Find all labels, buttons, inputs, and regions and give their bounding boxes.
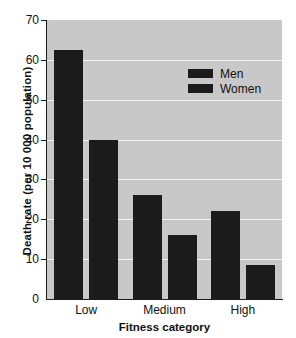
- y-axis-tick-label: 10: [5, 252, 39, 266]
- y-axis-line: [46, 20, 47, 300]
- y-axis-tick-mark: [41, 140, 46, 141]
- y-axis-tick-label: 60: [5, 53, 39, 67]
- y-axis-tick-labels: 010203040506070: [0, 0, 39, 338]
- y-axis-tick-label: 40: [5, 133, 39, 147]
- y-axis-tick-label: 50: [5, 93, 39, 107]
- y-axis-tick-label: 70: [5, 13, 39, 27]
- bar-medium-men: [133, 195, 162, 299]
- y-axis-tick-label: 20: [5, 212, 39, 226]
- y-axis-tick-mark: [41, 179, 46, 180]
- cropped-chart-title: [0, 0, 296, 5]
- bar-chart: Death rate (per 10 000 population) 01020…: [0, 0, 296, 338]
- legend-swatch-men: [188, 69, 213, 78]
- legend-item-women: Women: [188, 81, 261, 96]
- legend-label-men: Men: [220, 67, 243, 81]
- x-axis-title: Fitness category: [47, 321, 282, 333]
- y-axis-tick-mark: [41, 259, 46, 260]
- y-axis-tick-mark: [41, 100, 46, 101]
- bar-medium-women: [168, 235, 197, 299]
- bar-low-women: [89, 140, 118, 299]
- legend-item-men: Men: [188, 66, 261, 81]
- bar-low-men: [54, 50, 83, 299]
- y-axis-tick-mark: [41, 219, 46, 220]
- legend-label-women: Women: [220, 82, 261, 96]
- x-axis-tick-label-low: Low: [41, 303, 131, 317]
- y-axis-tick-label: 30: [5, 172, 39, 186]
- x-axis-tick-label-high: High: [198, 303, 288, 317]
- legend-swatch-women: [188, 84, 213, 93]
- bar-high-women: [246, 265, 275, 299]
- y-axis-tick-label: 0: [5, 292, 39, 306]
- bar-high-men: [211, 211, 240, 299]
- x-axis-line: [46, 299, 283, 300]
- y-axis-tick-mark: [41, 60, 46, 61]
- y-axis-tick-mark: [41, 20, 46, 21]
- x-axis-tick-label-medium: Medium: [120, 303, 210, 317]
- plot-area: [47, 20, 282, 299]
- legend: MenWomen: [188, 66, 261, 96]
